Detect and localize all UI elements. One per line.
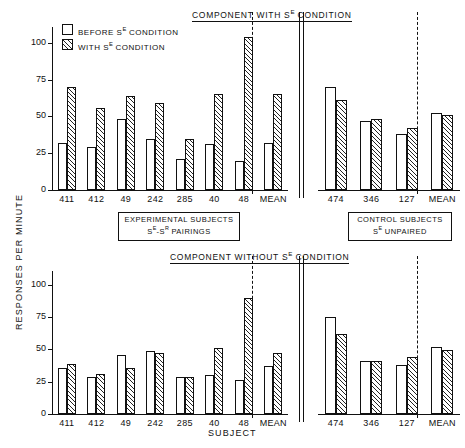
- y-tick-component-without-se-50: [48, 349, 52, 350]
- bar-component-without-se-48-with: [244, 298, 253, 414]
- bar-component-without-se-127-with: [407, 357, 418, 414]
- y-tick-label-component-with-se-50: 50: [20, 110, 46, 120]
- bar-component-with-se-127-with: [407, 128, 418, 190]
- bar-component-with-se-MEAN-before: [431, 113, 442, 190]
- y-tick-label-component-without-se-25: 25: [20, 376, 46, 386]
- bar-component-with-se-MEAN-before: [264, 143, 273, 190]
- bar-component-without-se-346-with: [371, 361, 382, 414]
- panel-divider-component-without-se: [299, 256, 304, 422]
- bar-component-without-se-MEAN-before: [264, 366, 273, 414]
- bar-component-without-se-49-with: [126, 368, 135, 415]
- bar-component-with-se-49-with: [126, 96, 135, 190]
- bar-component-with-se-127-before: [396, 134, 407, 190]
- x-axis-component-without-se-1: [318, 414, 460, 415]
- bar-component-without-se-474-with: [336, 334, 347, 414]
- y-tick-label-component-with-se-0: 0: [20, 184, 46, 194]
- x-tick-label-component-with-se-MEAN: MEAN: [420, 194, 464, 204]
- legend-label-before: BEFORE SE CONDITION: [78, 26, 178, 37]
- bar-component-with-se-48-with: [244, 37, 253, 190]
- y-tick-component-without-se-25: [48, 382, 52, 383]
- bar-component-with-se-411-with: [67, 87, 76, 190]
- caption-line-2: SE UNPAIRED: [354, 225, 446, 237]
- legend-label-with: WITH SE CONDITION: [78, 41, 165, 52]
- bar-component-with-se-48-before: [235, 161, 244, 191]
- bar-component-without-se-242-with: [155, 353, 164, 414]
- y-tick-component-with-se-25: [48, 153, 52, 154]
- y-tick-component-with-se-50: [48, 116, 52, 117]
- bar-component-with-se-346-with: [371, 119, 382, 190]
- x-tick-label-component-with-se-MEAN: MEAN: [251, 194, 295, 204]
- bar-component-without-se-411-with: [67, 364, 76, 414]
- bar-component-with-se-242-before: [146, 139, 155, 191]
- bar-component-without-se-MEAN-with: [442, 350, 453, 415]
- caption-line-2: SE-SR PAIRINGS: [124, 225, 234, 237]
- bar-component-without-se-40-with: [214, 348, 223, 414]
- chart-title-component-without-se: COMPONENT WITHOUT SE CONDITION: [170, 250, 349, 264]
- bar-component-with-se-412-with: [96, 108, 105, 191]
- bar-component-without-se-MEAN-before: [431, 347, 442, 414]
- bar-component-without-se-412-before: [87, 377, 96, 414]
- bar-component-with-se-285-with: [185, 139, 194, 191]
- y-axis-title: RESPONSES PER MINUTE: [14, 194, 24, 330]
- bar-component-with-se-242-with: [155, 103, 164, 190]
- panel-divider-component-with-se: [299, 12, 304, 198]
- chart-title-component-with-se: COMPONENT WITH SE CONDITION: [192, 8, 352, 22]
- y-tick-label-component-without-se-0: 0: [20, 408, 46, 418]
- y-tick-component-with-se-100: [48, 43, 52, 44]
- bar-component-with-se-474-before: [325, 87, 336, 190]
- bar-component-without-se-242-before: [146, 351, 155, 414]
- y-tick-component-without-se-100: [48, 285, 52, 286]
- y-tick-label-component-with-se-75: 75: [20, 74, 46, 84]
- caption-line-1: EXPERIMENTAL SUBJECTS: [124, 215, 234, 225]
- x-tick-label-component-without-se-MEAN: MEAN: [251, 418, 295, 428]
- bar-component-without-se-285-before: [176, 377, 185, 414]
- bar-component-without-se-411-before: [58, 368, 67, 415]
- y-axis-component-with-se: [52, 27, 53, 191]
- bar-component-with-se-285-before: [176, 159, 185, 190]
- bar-component-with-se-49-before: [117, 119, 126, 190]
- y-tick-label-component-without-se-50: 50: [20, 343, 46, 353]
- bar-component-with-se-346-before: [360, 121, 371, 190]
- caption-box-control: CONTROL SUBJECTSSE UNPAIRED: [348, 212, 452, 241]
- y-axis-component-without-se: [52, 271, 53, 415]
- y-tick-label-component-with-se-25: 25: [20, 147, 46, 157]
- figure-bar-charts: COMPONENT WITH SE CONDITION0255075100411…: [0, 0, 465, 448]
- bar-component-with-se-40-before: [205, 144, 214, 190]
- bar-component-with-se-MEAN-with: [273, 94, 282, 190]
- bar-component-without-se-346-before: [360, 361, 371, 414]
- bar-component-without-se-MEAN-with: [273, 353, 282, 414]
- bar-component-with-se-474-with: [336, 100, 347, 190]
- bar-component-without-se-285-with: [185, 377, 194, 414]
- y-tick-component-without-se-75: [48, 317, 52, 318]
- bar-component-with-se-40-with: [214, 94, 223, 190]
- bar-component-without-se-49-before: [117, 355, 126, 414]
- bar-component-without-se-48-before: [235, 380, 244, 414]
- y-tick-label-component-with-se-100: 100: [20, 37, 46, 47]
- bar-component-without-se-412-with: [96, 374, 105, 414]
- bar-component-with-se-412-before: [87, 147, 96, 190]
- bar-component-without-se-474-before: [325, 317, 336, 414]
- bar-component-without-se-127-before: [396, 365, 407, 414]
- x-tick-label-component-without-se-MEAN: MEAN: [420, 418, 464, 428]
- bar-component-without-se-40-before: [205, 375, 214, 414]
- legend-swatch-before: [62, 24, 73, 35]
- bar-component-with-se-MEAN-with: [442, 115, 453, 190]
- bar-component-with-se-411-before: [58, 143, 67, 190]
- y-tick-component-with-se-75: [48, 80, 52, 81]
- legend-swatch-with: [62, 39, 73, 50]
- x-axis-component-with-se-1: [318, 190, 460, 191]
- x-axis-title: SUBJECT: [208, 428, 257, 438]
- caption-box-experimental: EXPERIMENTAL SUBJECTSSE-SR PAIRINGS: [118, 212, 240, 241]
- caption-line-1: CONTROL SUBJECTS: [354, 215, 446, 225]
